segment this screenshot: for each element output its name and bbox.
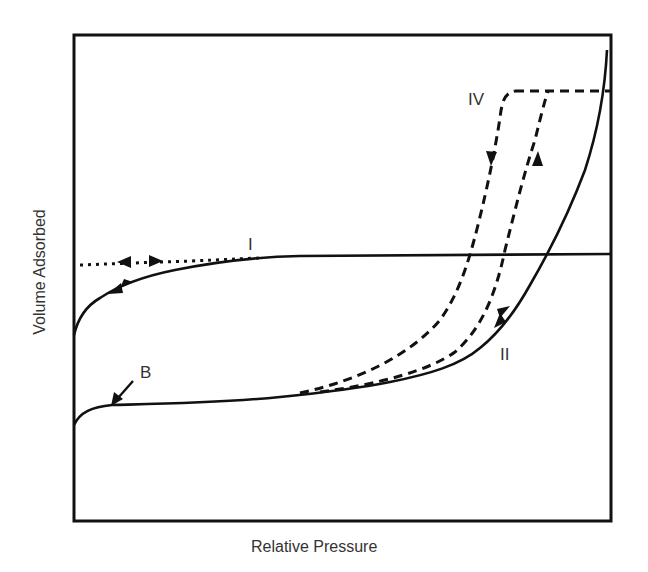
isotherm-diagram: I II IV B bbox=[0, 0, 648, 572]
point-B-pointer bbox=[118, 381, 133, 398]
label-point-B: B bbox=[140, 363, 151, 382]
arrow-up-icon bbox=[532, 151, 543, 166]
arrow-down-left-icon bbox=[108, 283, 123, 294]
curve-type-II bbox=[74, 50, 607, 425]
curve-type-IV-desorption bbox=[300, 91, 515, 393]
arrow-down-icon bbox=[486, 151, 497, 166]
curve-type-IV-adsorption bbox=[320, 91, 548, 392]
arrow-left-icon bbox=[117, 256, 131, 268]
arrow-right-icon bbox=[149, 255, 163, 267]
curve-type-I bbox=[74, 254, 611, 335]
y-axis-label: Volume Adsorbed bbox=[31, 209, 49, 334]
label-type-IV: IV bbox=[468, 90, 485, 109]
label-type-II: II bbox=[500, 345, 509, 364]
x-axis-label: Relative Pressure bbox=[251, 538, 377, 556]
label-type-I: I bbox=[248, 235, 253, 254]
plot-frame bbox=[74, 35, 611, 521]
